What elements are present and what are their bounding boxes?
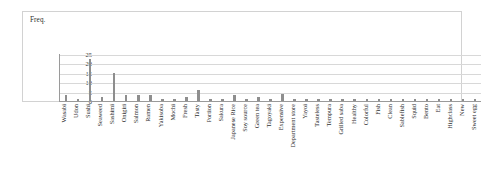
- bar-slot: [337, 55, 349, 101]
- x-axis-tick-label: New: [459, 104, 465, 116]
- x-axis-tick-label: Soy source: [242, 104, 248, 132]
- x-axis-tick-label: Fish: [375, 104, 381, 115]
- x-label-slot: Fish: [372, 104, 384, 190]
- bar: [378, 99, 381, 101]
- bar-slot: [421, 55, 433, 101]
- bar-slot: [96, 55, 108, 101]
- x-label-slot: New: [456, 104, 468, 190]
- bar: [450, 99, 453, 101]
- x-axis-tick-label: Highclass: [447, 104, 453, 129]
- x-axis-tick-label: Sashimi: [109, 104, 115, 124]
- bar-slot: [373, 55, 385, 101]
- x-label-slot: Sashimi: [106, 104, 118, 190]
- bar: [89, 59, 92, 101]
- bar-slot: [361, 55, 373, 101]
- bar: [257, 97, 260, 101]
- bar-slot: [313, 55, 325, 101]
- bar: [125, 95, 128, 101]
- bar: [233, 95, 236, 101]
- bar-slot: [289, 55, 301, 101]
- bar-slot: [397, 55, 409, 101]
- x-axis-tick-label: Ramen: [145, 104, 151, 122]
- bar: [341, 99, 344, 101]
- x-axis-tick-label: Tagoyaki: [266, 104, 272, 127]
- bar-slot: [204, 55, 216, 101]
- x-axis-tick-label: Onigiri: [121, 104, 127, 122]
- x-label-slot: Fresh: [179, 104, 191, 190]
- bar-slot: [192, 55, 204, 101]
- x-label-slot: Sakura: [215, 104, 227, 190]
- x-label-slot: Tagoyaki: [263, 104, 275, 190]
- bar: [281, 94, 284, 101]
- bar-slot: [349, 55, 361, 101]
- bar: [209, 99, 212, 101]
- bar-slot: [409, 55, 421, 101]
- bar: [474, 99, 477, 101]
- bar-slot: [180, 55, 192, 101]
- bar-slot: [445, 55, 457, 101]
- bar-slot: [156, 55, 168, 101]
- x-axis-tick-label: Tempura: [326, 104, 332, 126]
- x-label-slot: Sablefish: [396, 104, 408, 190]
- bar-slot: [144, 55, 156, 101]
- bar-slot: [457, 55, 469, 101]
- x-axis-tick-label: Yakisoba: [157, 104, 163, 127]
- bar: [137, 95, 140, 101]
- bar-series: [60, 55, 481, 101]
- x-axis-tick-label: Sweet egg: [471, 104, 477, 130]
- x-axis-tick-label: Fresh: [182, 104, 188, 118]
- x-label-slot: Yayoi: [299, 104, 311, 190]
- bar: [390, 99, 393, 101]
- bar-slot: [433, 55, 445, 101]
- x-axis-tick-label: Green tea: [254, 104, 260, 128]
- x-label-slot: Yakisoba: [155, 104, 167, 190]
- bar: [113, 73, 116, 101]
- plot-area: 0510152025: [59, 55, 481, 102]
- x-axis-tick-label: Squid: [411, 104, 417, 119]
- bar-slot: [325, 55, 337, 101]
- x-axis-tick-label: Yayoi: [302, 104, 308, 119]
- x-axis-tick-label: Sushi: [85, 104, 91, 118]
- bar: [402, 99, 405, 101]
- x-label-slot: Grilled saba: [335, 104, 347, 190]
- bar-slot: [240, 55, 252, 101]
- x-axis-tick-label: Seaweed: [97, 104, 103, 126]
- x-axis-tick-label: Japanese Rice: [230, 104, 236, 140]
- x-label-slot: Soy source: [239, 104, 251, 190]
- x-label-slot: Seaweed: [94, 104, 106, 190]
- bar: [329, 99, 332, 101]
- bar-slot: [120, 55, 132, 101]
- x-axis-tick-label: Udon: [73, 104, 79, 118]
- x-label-slot: Eat: [432, 104, 444, 190]
- x-axis-tick-label: Mochi: [169, 104, 175, 120]
- x-label-slot: Clean: [384, 104, 396, 190]
- x-axis-tick-label: Wasabi: [61, 104, 67, 122]
- x-axis-tick-labels: WasabiUdonSushiSeaweedSashimiOnigiriSalm…: [58, 104, 480, 190]
- bar: [414, 99, 417, 101]
- x-axis-tick-label: Healthy: [350, 104, 356, 124]
- x-label-slot: Tasty: [191, 104, 203, 190]
- x-axis-tick-label: Expensive: [278, 104, 284, 130]
- chart-frame: Freq. 0510152025: [22, 11, 462, 102]
- bar: [221, 99, 224, 101]
- x-axis-tick-label: Clean: [387, 104, 393, 119]
- x-label-slot: Ramen: [142, 104, 154, 190]
- x-label-slot: Mochi: [167, 104, 179, 190]
- bar: [366, 99, 369, 101]
- x-axis-tick-label: Grilled saba: [338, 104, 344, 135]
- bar: [305, 99, 308, 101]
- x-label-slot: Salmon: [130, 104, 142, 190]
- figure: Freq. 0510152025 WasabiUdonSushiSeaweedS…: [0, 0, 489, 196]
- x-label-slot: Healthy: [348, 104, 360, 190]
- bar: [293, 99, 296, 101]
- bar: [426, 99, 429, 101]
- bar: [269, 99, 272, 101]
- x-label-slot: Tasteless: [311, 104, 323, 190]
- x-label-slot: Highclass: [444, 104, 456, 190]
- x-label-slot: Green tea: [251, 104, 263, 190]
- bar: [101, 97, 104, 101]
- bar: [197, 90, 200, 101]
- bar-slot: [216, 55, 228, 101]
- x-axis-tick-label: Eat: [435, 104, 441, 112]
- x-label-slot: Portion: [203, 104, 215, 190]
